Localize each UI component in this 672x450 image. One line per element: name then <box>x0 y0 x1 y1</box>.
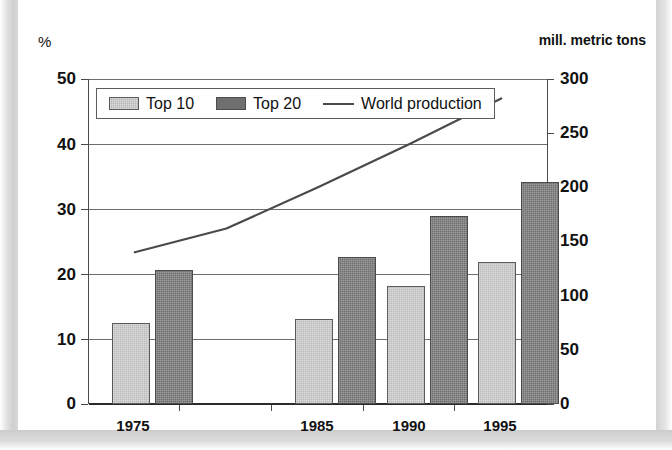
x-tick-mark-4 <box>454 404 455 411</box>
dual-axis-bar-line-chart: % mill. metric tons 50 40 30 20 10 0 300… <box>0 0 672 450</box>
left-axis-tick-40: 40 <box>34 136 76 153</box>
gridline-40 <box>89 144 547 145</box>
left-tick-mark-10 <box>81 339 88 340</box>
x-tick-mark-3 <box>363 404 364 411</box>
left-tick-mark-30 <box>81 209 88 210</box>
right-axis-tick-300: 300 <box>560 70 606 87</box>
right-axis-tick-50: 50 <box>560 341 606 358</box>
bar-top10-1990 <box>387 286 425 404</box>
left-axis-tick-10: 10 <box>34 331 76 348</box>
right-axis-tick-100: 100 <box>560 287 606 304</box>
right-axis-tick-0: 0 <box>560 395 606 412</box>
plot-area <box>88 79 548 404</box>
x-axis-label-1985: 1985 <box>277 418 357 433</box>
bar-top20-1995 <box>521 182 559 404</box>
left-axis-tick-50: 50 <box>34 70 76 87</box>
x-axis-label-1975: 1975 <box>93 418 173 433</box>
right-axis-tick-200: 200 <box>560 178 606 195</box>
left-tick-mark-20 <box>81 274 88 275</box>
bar-top10-1995 <box>478 262 516 404</box>
x-axis-label-1990: 1990 <box>369 418 449 433</box>
legend-entry-world-production: World production <box>323 96 482 112</box>
right-tick-mark-0 <box>547 404 554 405</box>
bar-top20-1985 <box>338 257 376 405</box>
left-axis-tick-0: 0 <box>34 395 76 412</box>
right-axis-unit-caption: mill. metric tons <box>539 32 646 48</box>
x-axis-label-1995: 1995 <box>460 418 540 433</box>
legend-entry-top10: Top 10 <box>109 96 194 112</box>
x-tick-mark-1 <box>179 404 180 411</box>
legend-entry-top20: Top 20 <box>216 96 301 112</box>
left-axis-tick-30: 30 <box>34 201 76 218</box>
bar-top10-1985 <box>295 319 333 404</box>
right-axis-tick-250: 250 <box>560 124 606 141</box>
legend-swatch-icon-top10 <box>109 97 139 110</box>
left-tick-mark-0 <box>81 404 88 405</box>
left-axis-unit-caption: % <box>38 33 51 50</box>
left-tick-mark-40 <box>81 144 88 145</box>
x-tick-mark-2 <box>271 404 272 411</box>
bar-top20-1975 <box>155 270 193 404</box>
bar-top10-1975 <box>112 323 150 404</box>
gridline-50 <box>89 79 547 80</box>
right-axis-tick-150: 150 <box>560 232 606 249</box>
legend-label-top20: Top 20 <box>253 96 301 112</box>
chart-legend: Top 10 Top 20 World production <box>96 88 495 119</box>
figure-frame: % mill. metric tons 50 40 30 20 10 0 300… <box>0 0 672 450</box>
bar-top20-1990 <box>430 216 468 405</box>
left-tick-mark-50 <box>81 79 88 80</box>
legend-label-world-production: World production <box>361 96 482 112</box>
legend-swatch-icon-top20 <box>216 97 246 110</box>
right-tick-mark-250 <box>547 133 554 134</box>
right-tick-mark-300 <box>547 79 554 80</box>
gridline-30 <box>89 209 547 210</box>
left-axis-tick-20: 20 <box>34 266 76 283</box>
legend-label-top10: Top 10 <box>146 96 194 112</box>
legend-line-icon-world-production <box>323 103 354 105</box>
